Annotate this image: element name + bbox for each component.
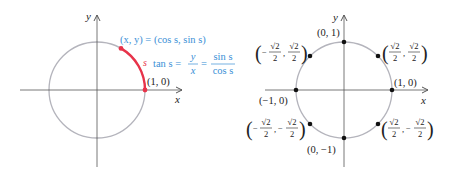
arc-s xyxy=(121,48,145,90)
label-q1: ( √2 2 , √2 2 ) xyxy=(382,41,428,65)
svg-text:,: , xyxy=(274,124,276,134)
point-q4 xyxy=(376,122,381,127)
right-diagram: y x (0, 1) (0, −1) (1, 0) (−1, 0) ( √2 2… xyxy=(246,11,434,167)
svg-text:2: 2 xyxy=(292,53,296,63)
svg-text:−: − xyxy=(253,123,258,133)
left-diagram: y x (x, y) = (cos s, sin s) s tan s = y … xyxy=(20,10,235,167)
point-0-1 xyxy=(342,40,347,45)
point-neg1-0 xyxy=(294,88,299,93)
label-1-0: (1, 0) xyxy=(394,77,417,89)
svg-text:√2: √2 xyxy=(271,41,280,51)
svg-text:(: ( xyxy=(255,42,262,65)
frac1-den: x xyxy=(190,65,196,76)
svg-text:2: 2 xyxy=(392,129,396,139)
unit-circle-diagrams: y x (x, y) = (cos s, sin s) s tan s = y … xyxy=(0,0,450,177)
point-q3 xyxy=(308,122,313,127)
frac2-num: sin s xyxy=(214,51,233,62)
frac1-num: y xyxy=(190,51,196,62)
svg-text:2: 2 xyxy=(264,129,268,139)
svg-text:√2: √2 xyxy=(410,41,419,51)
tan-formula: tan s = y x = sin s cos s xyxy=(153,51,235,76)
frac2-den: cos s xyxy=(213,65,234,76)
tan-prefix: tan s = xyxy=(153,58,181,69)
label-q2: ( − √2 2 , √2 2 ) xyxy=(255,41,308,65)
svg-text:−: − xyxy=(262,47,267,57)
svg-text:): ) xyxy=(299,118,306,141)
label-0-neg1: (0, −1) xyxy=(307,144,336,156)
label-0-1: (0, 1) xyxy=(317,27,340,39)
point-q1 xyxy=(376,54,381,59)
svg-text:√2: √2 xyxy=(290,41,299,51)
svg-text:(: ( xyxy=(246,118,253,141)
svg-text:√2: √2 xyxy=(288,117,297,127)
point-0-neg1 xyxy=(342,136,347,141)
point-cos-sin xyxy=(119,46,124,51)
point-1-0 xyxy=(390,88,395,93)
svg-text:): ) xyxy=(427,118,434,141)
svg-text:,: , xyxy=(402,124,404,134)
svg-text:2: 2 xyxy=(412,53,416,63)
svg-text:2: 2 xyxy=(290,129,294,139)
svg-text:√2: √2 xyxy=(262,117,271,127)
point-q2 xyxy=(308,54,313,59)
label-neg1-0: (−1, 0) xyxy=(259,95,288,107)
svg-text:2: 2 xyxy=(393,53,397,63)
point-one-zero xyxy=(143,88,148,93)
svg-text:(: ( xyxy=(382,42,389,65)
right-y-label: y xyxy=(332,11,338,23)
svg-text:,: , xyxy=(403,48,405,58)
svg-text:√2: √2 xyxy=(390,117,399,127)
svg-text:2: 2 xyxy=(273,53,277,63)
left-x-label: x xyxy=(174,93,180,105)
svg-text:2: 2 xyxy=(418,129,422,139)
svg-text:(: ( xyxy=(381,118,388,141)
svg-text:,: , xyxy=(283,48,285,58)
left-y-label: y xyxy=(85,10,91,22)
label-one-zero-left: (1, 0) xyxy=(147,76,170,88)
svg-text:−: − xyxy=(278,123,283,133)
svg-text:−: − xyxy=(406,123,411,133)
svg-text:√2: √2 xyxy=(416,117,425,127)
svg-text:): ) xyxy=(301,42,308,65)
eq-sign: = xyxy=(201,58,207,69)
svg-text:): ) xyxy=(421,42,428,65)
svg-text:√2: √2 xyxy=(391,41,400,51)
arc-label-s: s xyxy=(143,57,147,68)
label-q3: ( − √2 2 , − √2 2 ) xyxy=(246,117,306,141)
label-q4: ( √2 2 , − √2 2 ) xyxy=(381,117,434,141)
point-label-cos-sin: (x, y) = (cos s, sin s) xyxy=(120,34,206,46)
right-x-label: x xyxy=(420,94,426,106)
